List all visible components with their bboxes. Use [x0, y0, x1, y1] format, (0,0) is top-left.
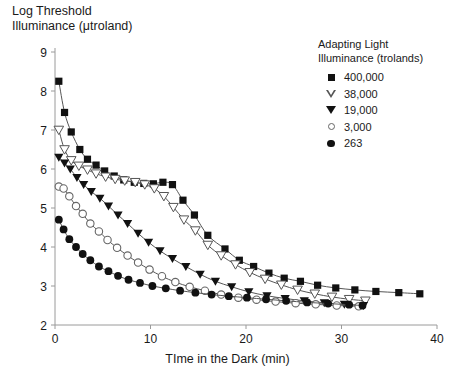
- data-point: [303, 298, 311, 306]
- data-point: [243, 294, 251, 302]
- data-point: [95, 263, 103, 271]
- data-point: [235, 294, 242, 301]
- data-point: [277, 281, 287, 289]
- dark-adaptation-chart: Log Threshold Illuminance (μtroland) TIm…: [0, 0, 455, 387]
- data-point: [211, 278, 220, 286]
- data-point: [169, 181, 176, 188]
- data-point: [351, 286, 358, 293]
- legend-title: Adapting Light Illuminance (trolands): [318, 38, 423, 65]
- y-tick-label: 3: [40, 280, 47, 294]
- x-axis-title: TIme in the Dark (min): [0, 352, 455, 367]
- x-tick-label: 30: [335, 332, 349, 346]
- data-point: [87, 220, 94, 227]
- legend-item[interactable]: 3,000: [318, 119, 423, 136]
- data-point: [176, 287, 184, 295]
- data-point: [125, 276, 133, 284]
- data-point: [55, 78, 62, 85]
- legend-marker-icon: [318, 74, 344, 81]
- legend-marker-icon: [318, 140, 344, 148]
- legend-label: 400,000: [344, 70, 384, 84]
- data-point: [65, 235, 73, 243]
- data-point: [91, 170, 101, 178]
- data-point: [312, 301, 319, 308]
- data-point: [395, 289, 402, 296]
- data-point: [136, 279, 144, 287]
- legend-item[interactable]: 38,000: [318, 86, 423, 103]
- data-point: [83, 166, 93, 174]
- data-point: [253, 296, 260, 303]
- legend-item[interactable]: 19,000: [318, 102, 423, 119]
- data-point: [172, 278, 179, 285]
- data-point: [72, 243, 80, 251]
- data-point: [68, 128, 75, 135]
- data-point: [196, 271, 205, 279]
- legend-item[interactable]: 400,000: [318, 69, 423, 86]
- data-point: [181, 263, 190, 271]
- y-tick-label: 4: [40, 241, 47, 255]
- fitted-curve: [59, 130, 366, 301]
- y-tick-label: 8: [40, 85, 47, 99]
- legend-marker-icon: [318, 90, 344, 98]
- data-point: [217, 291, 224, 298]
- data-point: [124, 252, 131, 259]
- data-point: [113, 244, 120, 251]
- data-point: [186, 283, 193, 290]
- data-point: [260, 275, 270, 283]
- data-point: [262, 295, 270, 303]
- legend-marker-icon: [318, 106, 344, 114]
- data-point: [76, 146, 83, 153]
- data-point: [92, 162, 99, 169]
- data-point: [79, 210, 86, 217]
- legend-label: 19,000: [344, 103, 378, 117]
- y-tick-label: 7: [40, 124, 47, 138]
- data-point: [105, 267, 113, 275]
- data-point: [179, 197, 186, 204]
- data-point: [162, 284, 170, 292]
- data-point: [216, 252, 226, 260]
- legend-label: 263: [344, 136, 362, 150]
- data-point: [66, 165, 75, 173]
- data-point: [72, 202, 79, 209]
- data-point: [150, 185, 160, 193]
- data-point: [114, 272, 122, 280]
- data-point: [225, 292, 233, 300]
- data-point: [168, 255, 177, 263]
- data-point: [95, 228, 102, 235]
- data-point: [314, 282, 321, 289]
- legend-marker-icon: [318, 123, 344, 130]
- data-point: [191, 289, 199, 297]
- data-point: [149, 282, 157, 290]
- x-tick-label: 40: [430, 332, 444, 346]
- y-axis-title: Log Threshold Illuminance (μtroland): [12, 4, 132, 34]
- data-point: [86, 256, 94, 264]
- data-point: [60, 185, 67, 192]
- data-point: [231, 261, 241, 269]
- data-point: [208, 291, 216, 299]
- data-point: [155, 247, 164, 255]
- data-point: [191, 211, 198, 218]
- x-tick-label: 0: [52, 332, 59, 346]
- data-point: [159, 179, 166, 186]
- data-point: [245, 269, 255, 277]
- data-point: [61, 109, 68, 116]
- legend-label: 38,000: [344, 87, 378, 101]
- data-point: [292, 299, 299, 306]
- data-point: [84, 156, 91, 163]
- data-point: [74, 162, 84, 170]
- data-point: [55, 216, 63, 224]
- data-point: [204, 232, 211, 239]
- data-point: [324, 300, 332, 308]
- data-point: [104, 236, 111, 243]
- data-point: [144, 239, 153, 247]
- legend-item[interactable]: 263: [318, 135, 423, 152]
- data-point: [66, 193, 73, 200]
- legend-items: 400,00038,00019,0003,000263: [318, 69, 423, 152]
- y-tick-label: 5: [40, 202, 47, 216]
- data-point: [372, 288, 379, 295]
- data-point: [345, 301, 353, 309]
- data-point: [416, 290, 423, 297]
- data-point: [158, 273, 165, 280]
- x-tick-label: 10: [144, 332, 158, 346]
- legend: Adapting Light Illuminance (trolands) 40…: [318, 38, 423, 152]
- data-point: [333, 302, 340, 309]
